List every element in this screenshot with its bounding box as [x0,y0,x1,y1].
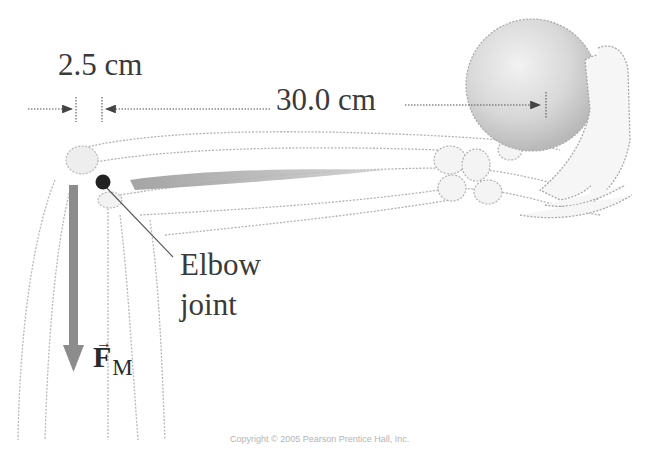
forearm-muscle [130,169,385,190]
copyright-notice: Copyright © 2005 Pearson Prentice Hall, … [230,434,409,444]
upper-arm [18,180,165,440]
ball [466,19,598,151]
force-subscript: M [112,355,132,380]
elbow-bone [66,146,98,174]
elbow-joint-dot [96,175,111,190]
force-label: →FM [93,340,133,381]
elbow-label-line2: joint [180,285,261,325]
dimension-label-small: 2.5 cm [58,47,142,83]
elbow-label-line1: Elbow [180,245,261,285]
wrist-bones [434,140,522,204]
dimension-label-large: 30.0 cm [270,82,382,118]
muscle-force-arrow [63,185,84,372]
elbow-pointer-line [103,184,173,257]
vector-arrow-icon: → [96,334,112,352]
forearm-torque-diagram: 2.5 cm 30.0 cm Elbow joint →FM Copyright… [0,0,649,457]
elbow-joint-label: Elbow joint [180,245,261,325]
